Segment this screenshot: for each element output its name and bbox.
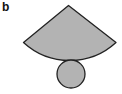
cone-lateral-sector bbox=[24, 6, 117, 61]
cone-base-circle bbox=[57, 60, 85, 88]
cone-net-diagram bbox=[0, 0, 122, 94]
